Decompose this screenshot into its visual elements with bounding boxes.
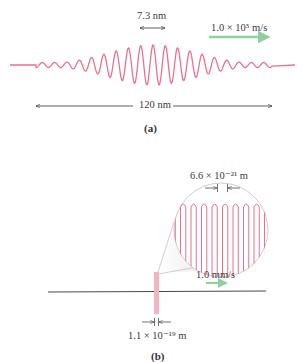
caption-b: (b): [151, 350, 164, 362]
wave-packet: [10, 45, 295, 85]
wavelength-label: 7.3 nm: [137, 10, 166, 21]
width-label: 1.1 × 10⁻¹⁹ m: [128, 329, 186, 341]
diagram-canvas: [0, 0, 303, 362]
length-label: 120 nm: [137, 99, 173, 110]
velocity-label-a: 1.0 × 10⁵ m/s: [211, 22, 267, 33]
magnified-wavelength-label: 6.6 × 10⁻²¹ m: [190, 169, 248, 181]
narrow-wave-packet: [154, 272, 159, 314]
velocity-label-b: 1.0 mm/s: [196, 269, 235, 280]
caption-a: (a): [144, 122, 157, 134]
